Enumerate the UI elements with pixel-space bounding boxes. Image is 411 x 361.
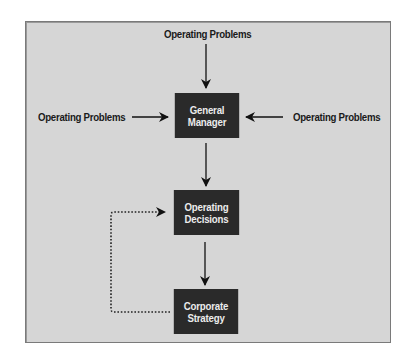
node-general-manager-line2: Manager — [188, 116, 226, 128]
node-corporate-strategy-line2: Strategy — [184, 312, 229, 324]
node-operating-decisions: Operating Decisions — [174, 190, 239, 235]
node-corporate-strategy: Corporate Strategy — [174, 289, 238, 334]
node-general-manager: General Manager — [175, 93, 239, 138]
dotted-feedback-arrow — [111, 212, 170, 312]
input-label-top: Operating Problems — [164, 28, 251, 40]
input-label-left: Operating Problems — [38, 111, 125, 123]
node-operating-decisions-line1: Operating — [185, 201, 229, 213]
node-general-manager-line1: General — [188, 104, 226, 116]
node-operating-decisions-line2: Decisions — [185, 213, 229, 225]
input-label-right: Operating Problems — [293, 111, 380, 123]
node-corporate-strategy-line1: Corporate — [184, 300, 229, 312]
